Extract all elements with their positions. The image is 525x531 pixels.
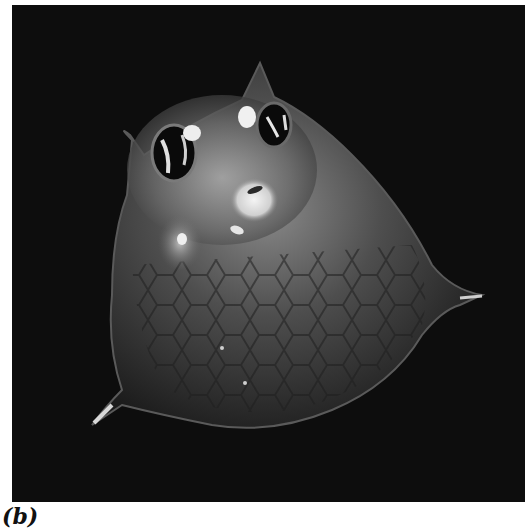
figure-photo: [12, 5, 525, 502]
side-spot-highlight: [177, 233, 187, 245]
figure-label: (b): [2, 503, 38, 529]
right-fin-tip: [460, 296, 482, 298]
boxfish-illustration: [12, 5, 525, 502]
